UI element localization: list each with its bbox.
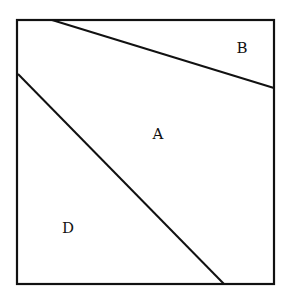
region-label-b: B <box>236 39 247 57</box>
region-label-a: A <box>152 125 164 143</box>
outer-square <box>17 20 274 284</box>
partitioned-square-diagram: B A D <box>0 0 287 302</box>
lower-dividing-line <box>18 74 224 284</box>
region-label-d: D <box>62 219 74 237</box>
